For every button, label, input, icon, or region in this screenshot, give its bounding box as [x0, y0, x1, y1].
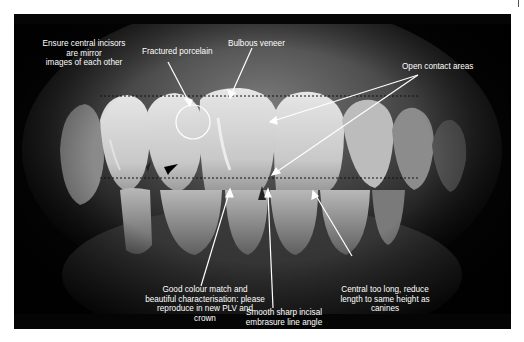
label-bulbous-veneer: Bulbous veneer: [228, 39, 285, 49]
label-text: Bulbous veneer: [228, 39, 285, 48]
label-line: Good colour match and: [134, 285, 276, 295]
label-embrasure: Smooth sharp incisal embrasure line angl…: [234, 308, 334, 327]
label-line: beautiful characterisation: please: [134, 295, 276, 305]
label-line: are mirror: [34, 49, 134, 59]
label-line: Ensure central incisors: [34, 39, 134, 49]
label-text: Open contact areas: [402, 62, 473, 71]
label-mirror-images: Ensure central incisors are mirror image…: [34, 39, 134, 68]
dental-photograph: Ensure central incisors are mirror image…: [14, 14, 511, 329]
label-line: embrasure line angle: [234, 318, 334, 328]
label-line: Smooth sharp incisal: [234, 308, 334, 318]
label-line: images of each other: [34, 58, 134, 68]
label-open-contact-areas: Open contact areas: [402, 62, 473, 72]
label-text: Fractured porcelain: [142, 47, 213, 56]
label-central-too-long: Central too long, reduce length to same …: [330, 285, 440, 314]
page-edge-mark: [518, 0, 519, 7]
label-line: length to same height as: [330, 295, 440, 305]
label-line: Central too long, reduce: [330, 285, 440, 295]
label-line: canines: [330, 304, 440, 314]
label-fractured-porcelain: Fractured porcelain: [142, 47, 213, 57]
